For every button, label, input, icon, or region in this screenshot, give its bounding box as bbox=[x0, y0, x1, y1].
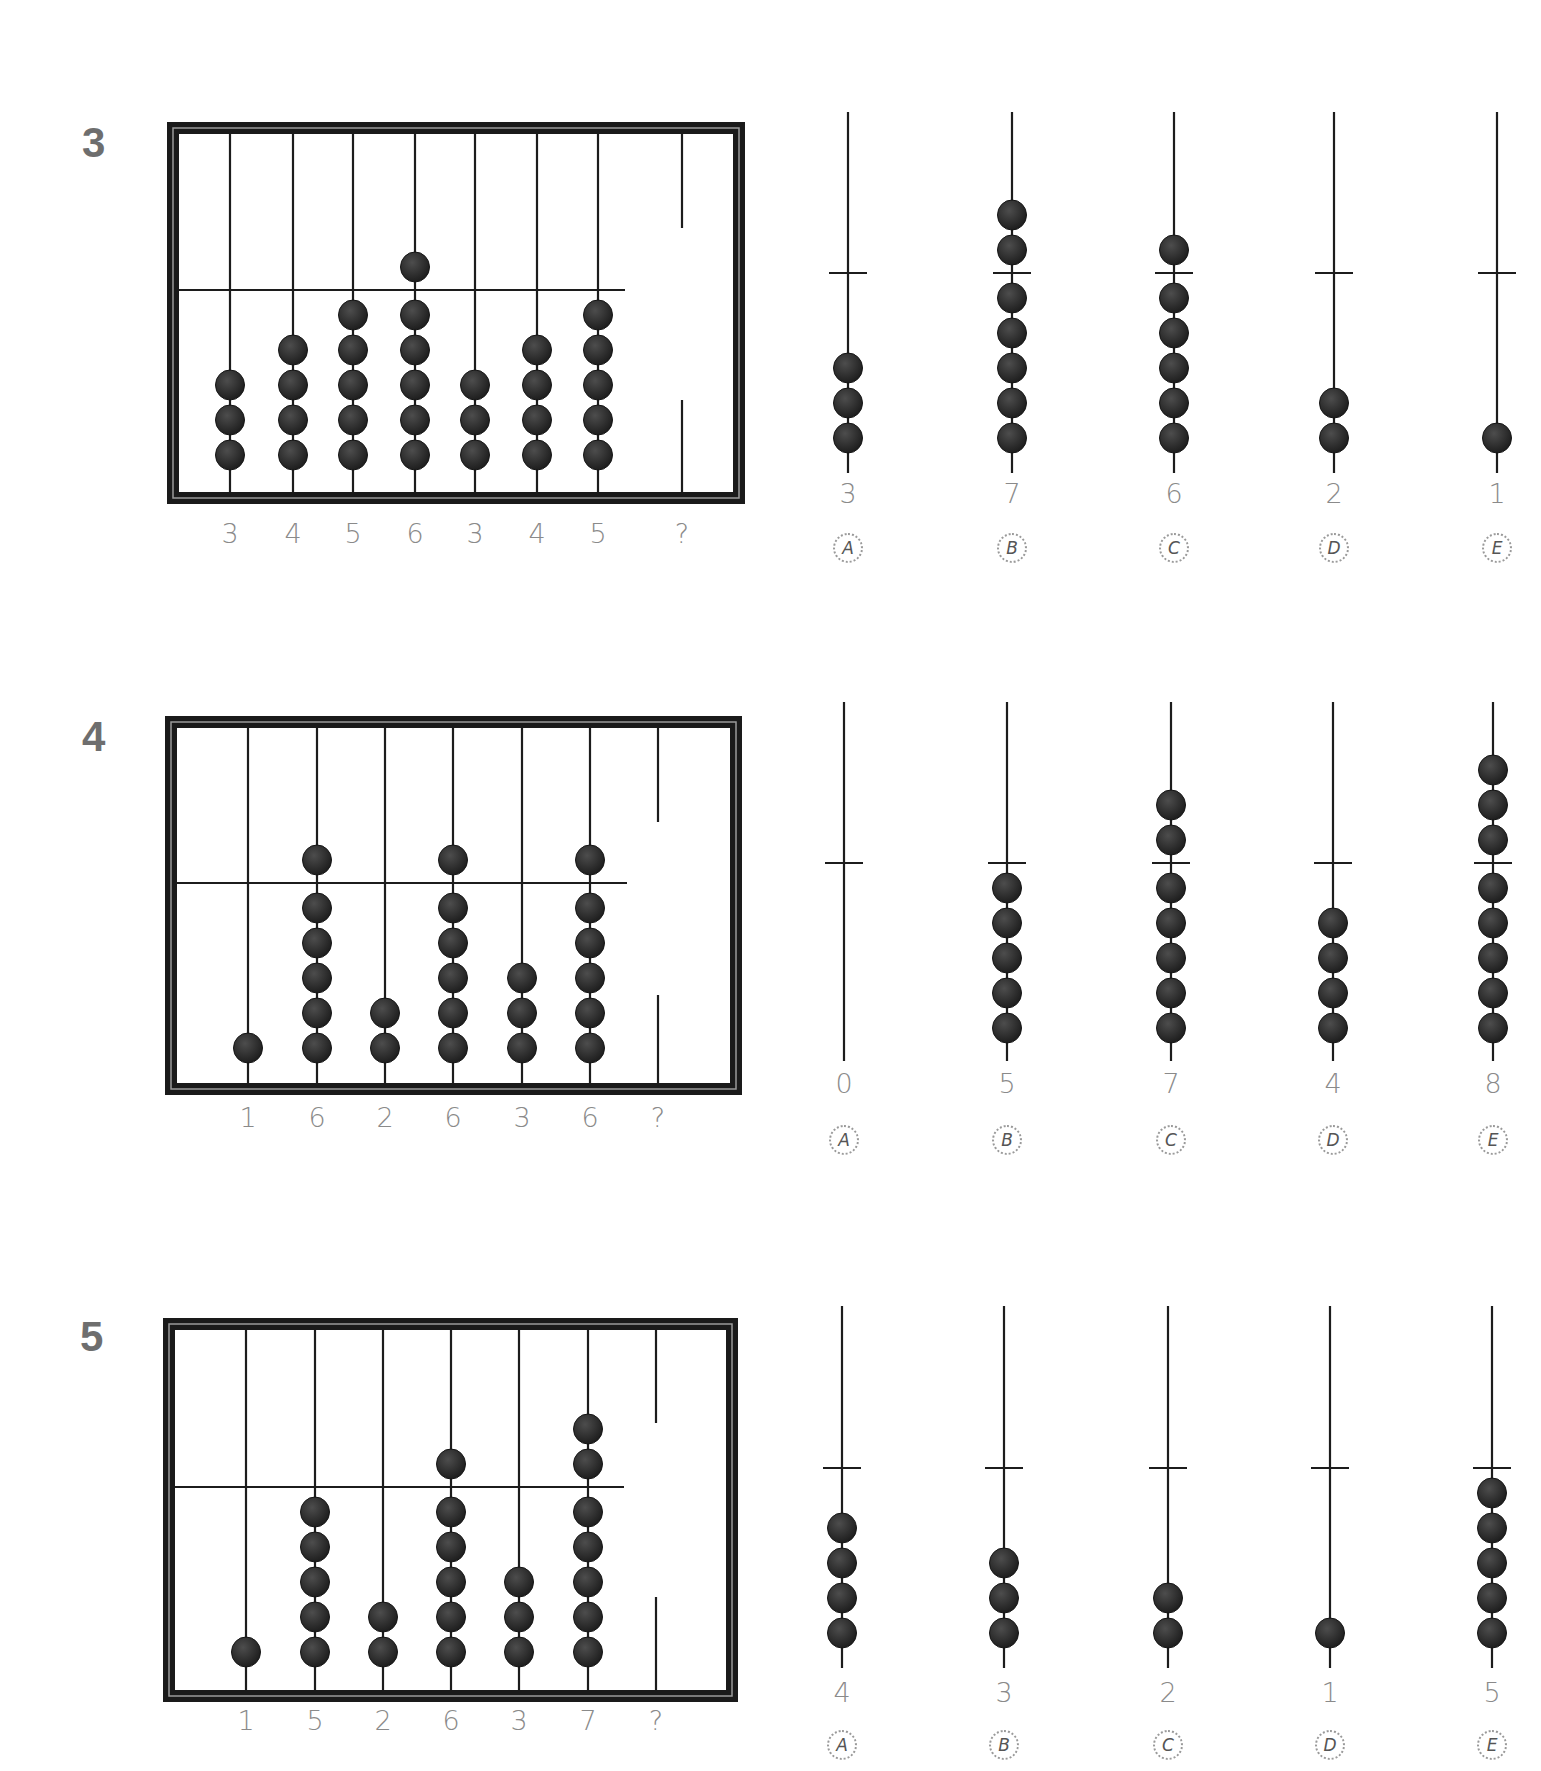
abacus-rod bbox=[303, 728, 332, 1083]
answer-option-a[interactable] bbox=[823, 1306, 861, 1668]
option-value-label: 2 bbox=[1325, 480, 1342, 507]
answer-option-a[interactable] bbox=[825, 702, 863, 1061]
rod-value-label: 6 bbox=[308, 1104, 325, 1131]
bead bbox=[584, 405, 613, 435]
problem-5 bbox=[169, 1306, 1511, 1696]
answer-option-b[interactable] bbox=[985, 1306, 1023, 1668]
bead bbox=[216, 440, 245, 470]
bead bbox=[439, 998, 468, 1028]
answer-option-d[interactable] bbox=[1315, 112, 1353, 473]
bead bbox=[1478, 1548, 1507, 1578]
bead bbox=[1320, 423, 1349, 453]
bead bbox=[1319, 943, 1348, 973]
bead bbox=[505, 1637, 534, 1667]
abacus-rod bbox=[505, 1330, 534, 1690]
answer-option-d[interactable] bbox=[1311, 1306, 1349, 1668]
bead bbox=[369, 1602, 398, 1632]
answer-option-c[interactable] bbox=[1149, 1306, 1187, 1668]
option-d-button[interactable]: D bbox=[1319, 533, 1349, 563]
bead bbox=[1483, 423, 1512, 453]
bead bbox=[301, 1637, 330, 1667]
bead bbox=[574, 1602, 603, 1632]
bead bbox=[339, 405, 368, 435]
unknown-value-label: ? bbox=[651, 1104, 665, 1131]
bead bbox=[828, 1618, 857, 1648]
option-a-button[interactable]: A bbox=[833, 533, 863, 563]
option-value-label: 6 bbox=[1165, 480, 1182, 507]
rod-value-label: 5 bbox=[344, 520, 361, 547]
option-a-button[interactable]: A bbox=[827, 1730, 857, 1760]
option-letter: C bbox=[1162, 1735, 1174, 1755]
option-value-label: 8 bbox=[1484, 1070, 1501, 1097]
rod-value-label: 3 bbox=[510, 1707, 527, 1734]
bead bbox=[461, 370, 490, 400]
option-a-button[interactable]: A bbox=[829, 1125, 859, 1155]
bead bbox=[574, 1497, 603, 1527]
option-d-button[interactable]: D bbox=[1315, 1730, 1345, 1760]
bead bbox=[232, 1637, 261, 1667]
bead bbox=[584, 300, 613, 330]
bead bbox=[1160, 388, 1189, 418]
abacus-rod bbox=[584, 134, 613, 492]
bead bbox=[523, 440, 552, 470]
bead bbox=[1319, 908, 1348, 938]
bead bbox=[990, 1583, 1019, 1613]
answer-option-d[interactable] bbox=[1314, 702, 1352, 1061]
abacus-rod bbox=[401, 134, 430, 492]
option-b-button[interactable]: B bbox=[989, 1730, 1019, 1760]
rod-value-label: 2 bbox=[376, 1104, 393, 1131]
bead bbox=[574, 1414, 603, 1444]
bead bbox=[301, 1567, 330, 1597]
rod-value-label: 3 bbox=[513, 1104, 530, 1131]
option-c-button[interactable]: C bbox=[1153, 1730, 1183, 1760]
bead bbox=[1160, 353, 1189, 383]
bead bbox=[401, 300, 430, 330]
bead bbox=[998, 423, 1027, 453]
bead bbox=[401, 252, 430, 282]
option-letter: D bbox=[1327, 538, 1340, 558]
bead bbox=[1319, 1013, 1348, 1043]
rod-value-label: 4 bbox=[284, 520, 301, 547]
rod-value-label: 7 bbox=[579, 1707, 596, 1734]
bead bbox=[1157, 978, 1186, 1008]
bead bbox=[1479, 943, 1508, 973]
abacus-rod bbox=[301, 1330, 330, 1690]
abacus-rod bbox=[216, 134, 245, 492]
answer-option-b[interactable] bbox=[993, 112, 1031, 473]
option-e-button[interactable]: E bbox=[1478, 1125, 1508, 1155]
abacus-rod bbox=[369, 1330, 398, 1690]
problem-number: 4 bbox=[82, 716, 105, 758]
option-e-button[interactable]: E bbox=[1482, 533, 1512, 563]
bead bbox=[1479, 790, 1508, 820]
option-c-button[interactable]: C bbox=[1159, 533, 1189, 563]
bead bbox=[998, 283, 1027, 313]
bead bbox=[437, 1602, 466, 1632]
bead bbox=[998, 235, 1027, 265]
option-e-button[interactable]: E bbox=[1477, 1730, 1507, 1760]
bead bbox=[279, 405, 308, 435]
option-letter: B bbox=[1006, 538, 1018, 558]
bead bbox=[1478, 1618, 1507, 1648]
abacus-drawings bbox=[0, 0, 1541, 1771]
answer-option-e[interactable] bbox=[1474, 702, 1512, 1061]
bead bbox=[584, 370, 613, 400]
answer-option-c[interactable] bbox=[1155, 112, 1193, 473]
bead bbox=[1157, 908, 1186, 938]
option-b-button[interactable]: B bbox=[997, 533, 1027, 563]
answer-option-e[interactable] bbox=[1478, 112, 1516, 473]
bead bbox=[993, 1013, 1022, 1043]
answer-option-c[interactable] bbox=[1152, 702, 1190, 1061]
bead bbox=[834, 353, 863, 383]
option-b-button[interactable]: B bbox=[992, 1125, 1022, 1155]
option-letter: A bbox=[842, 538, 854, 558]
bead bbox=[574, 1449, 603, 1479]
bead bbox=[828, 1583, 857, 1613]
bead bbox=[301, 1602, 330, 1632]
bead bbox=[216, 405, 245, 435]
option-c-button[interactable]: C bbox=[1156, 1125, 1186, 1155]
option-d-button[interactable]: D bbox=[1318, 1125, 1348, 1155]
answer-option-e[interactable] bbox=[1473, 1306, 1511, 1668]
bead bbox=[401, 370, 430, 400]
answer-option-b[interactable] bbox=[988, 702, 1026, 1061]
answer-option-a[interactable] bbox=[829, 112, 867, 473]
